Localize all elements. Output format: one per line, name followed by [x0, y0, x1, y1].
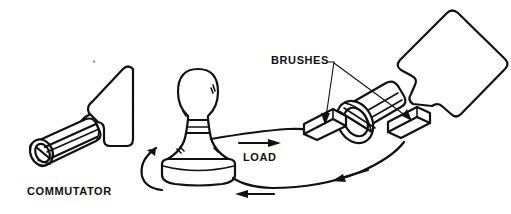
rotation-arrow [142, 148, 162, 190]
diagram-artwork [0, 0, 511, 214]
lamp-load [162, 69, 235, 186]
circuit-wires [211, 129, 404, 198]
generator-diagram: COMMUTATOR BRUSHES LOAD [0, 0, 511, 214]
label-load: LOAD [243, 152, 277, 163]
armature-loop-right [398, 11, 508, 117]
label-commutator: COMMUTATOR [27, 186, 112, 197]
label-brushes: BRUSHES [271, 55, 329, 66]
